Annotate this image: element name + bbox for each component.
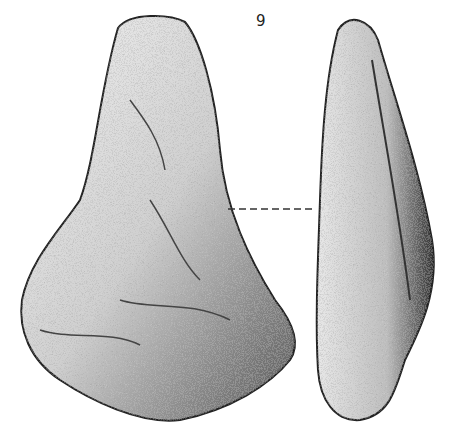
face-view <box>21 16 295 421</box>
profile-view <box>317 20 434 420</box>
artifact-drawing <box>0 0 455 443</box>
